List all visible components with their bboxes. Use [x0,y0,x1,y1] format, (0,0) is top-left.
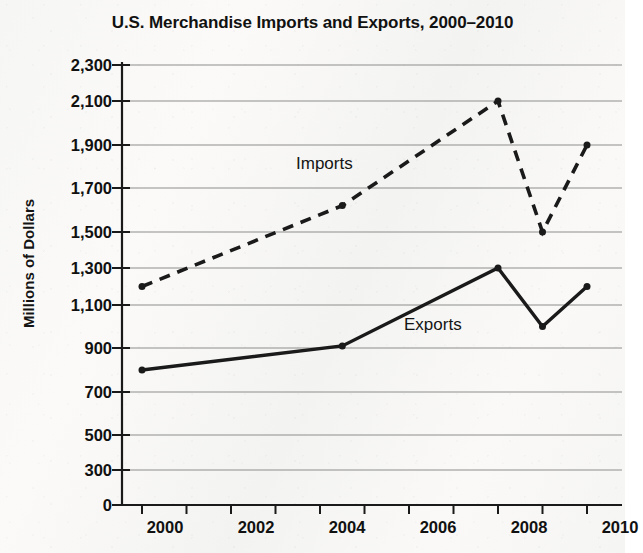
data-series-group [139,98,591,374]
series-line-exports [142,268,587,370]
data-point-marker [584,283,591,290]
x-tick-marks-group [142,505,587,514]
series-line-imports [142,101,587,287]
data-point-marker [539,229,546,236]
data-point-marker [495,98,502,105]
gridlines-group [122,65,622,470]
data-point-marker [139,367,146,374]
data-point-marker [339,202,346,209]
data-point-marker [584,142,591,149]
data-point-marker [495,265,502,272]
axis-lines-group [122,62,622,505]
data-point-marker [339,342,346,349]
data-point-marker [139,283,146,290]
data-point-marker [539,323,546,330]
